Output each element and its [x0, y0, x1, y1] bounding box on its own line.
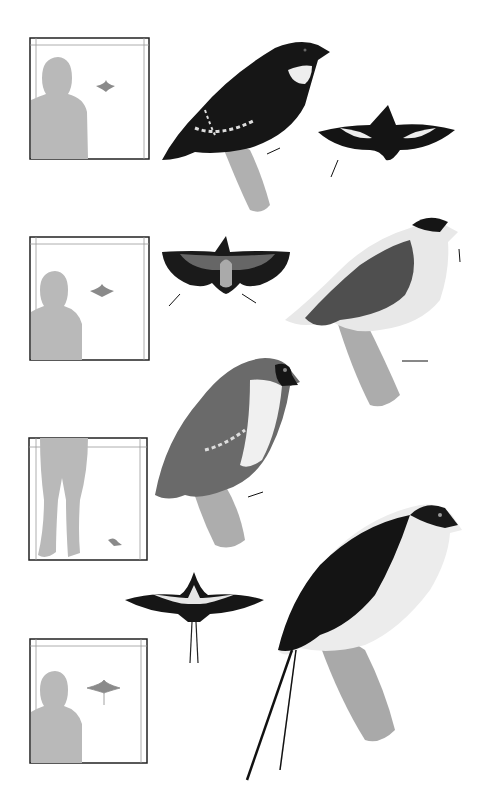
scale-box-1: [30, 38, 149, 159]
branch: [320, 641, 395, 741]
arrow: [331, 160, 338, 177]
arrow: [169, 294, 180, 306]
flight-view-2: [162, 236, 290, 306]
bird-plate: [0, 0, 490, 808]
flight-view-1: [318, 105, 455, 177]
bird-1-perched: [162, 42, 330, 212]
tail-streamer: [280, 650, 296, 770]
bird-body: [162, 42, 330, 160]
bird-3-perched: [155, 358, 300, 548]
arrow: [242, 294, 256, 303]
arrow: [267, 148, 280, 154]
branch: [222, 143, 270, 211]
scale-box-2: [30, 237, 149, 360]
bird-2-perched: [285, 218, 460, 407]
tail-streamer: [247, 650, 292, 780]
arrow: [248, 492, 263, 497]
scale-box-4: [30, 639, 147, 763]
tail-streamer: [196, 622, 198, 663]
bird-4-perched: [247, 504, 462, 780]
tail-streamer: [190, 622, 192, 663]
scale-box-3: [29, 438, 147, 560]
arrow: [459, 249, 460, 262]
